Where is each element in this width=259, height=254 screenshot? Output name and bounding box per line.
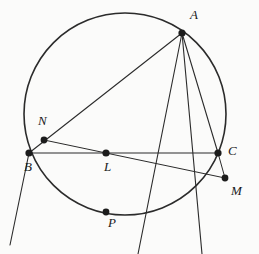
point-label-a: A: [190, 8, 198, 21]
point-label-n: N: [38, 114, 47, 127]
point-label-b: B: [24, 160, 32, 173]
point-marker-m: [222, 175, 229, 182]
point-marker-a: [178, 29, 185, 36]
point-marker-c: [214, 149, 221, 156]
geometry-figure: ANBLCMP: [0, 0, 259, 254]
segment-C-to-M: [218, 153, 225, 178]
segment-A-B-through-N: [29, 33, 182, 153]
point-label-l: L: [104, 160, 111, 173]
point-marker-l: [102, 149, 109, 156]
line-A-through-P-extended: [138, 33, 182, 254]
segments-layer: [10, 33, 225, 254]
point-label-p: P: [108, 216, 116, 229]
point-label-c: C: [228, 144, 237, 157]
point-marker-n: [41, 137, 48, 144]
point-marker-b: [25, 149, 32, 156]
segment-N-to-M: [44, 140, 225, 178]
point-label-m: M: [231, 184, 242, 197]
